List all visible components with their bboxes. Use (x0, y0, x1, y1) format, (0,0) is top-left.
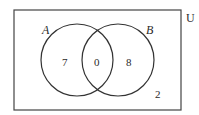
intersection-count: 0 (94, 56, 100, 68)
set-a-label: A (41, 23, 50, 37)
set-b-circle (82, 24, 154, 96)
universe-label: U (186, 11, 195, 25)
set-a-circle (41, 24, 113, 96)
b-only-count: 8 (126, 56, 132, 68)
venn-diagram: U A B 7 0 8 2 (0, 0, 199, 115)
outside-count: 2 (155, 88, 161, 100)
a-only-count: 7 (62, 56, 68, 68)
set-b-label: B (146, 23, 154, 37)
